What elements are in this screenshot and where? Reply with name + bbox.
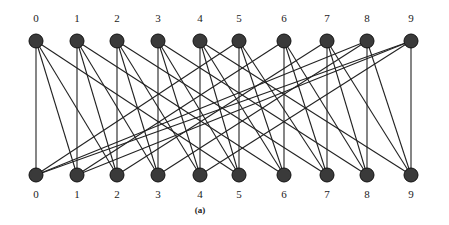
top-node-6 <box>277 34 291 48</box>
bipartite-graph <box>0 0 449 225</box>
top-node-5 <box>232 34 246 48</box>
bottom-node-1 <box>70 168 84 182</box>
top-label-9: 9 <box>408 12 414 24</box>
top-node-7 <box>320 34 334 48</box>
edges <box>36 41 411 175</box>
bottom-node-2 <box>110 168 124 182</box>
top-node-0 <box>29 34 43 48</box>
figure-caption: (a) <box>195 205 206 215</box>
top-node-8 <box>360 34 374 48</box>
edge-1-2 <box>77 41 117 175</box>
bottom-label-6: 6 <box>281 188 287 200</box>
bottom-node-4 <box>193 168 207 182</box>
bottom-label-8: 8 <box>364 188 370 200</box>
top-label-8: 8 <box>364 12 370 24</box>
top-label-0: 0 <box>33 12 39 24</box>
bottom-node-0 <box>29 168 43 182</box>
bottom-node-9 <box>404 168 418 182</box>
bottom-label-4: 4 <box>197 188 203 200</box>
edge-4-5 <box>200 41 239 175</box>
top-label-3: 3 <box>155 12 161 24</box>
top-node-9 <box>404 34 418 48</box>
top-label-4: 4 <box>197 12 203 24</box>
top-label-6: 6 <box>281 12 287 24</box>
bottom-node-3 <box>151 168 165 182</box>
edge-4-6 <box>200 41 284 175</box>
bottom-label-3: 3 <box>155 188 161 200</box>
top-label-7: 7 <box>324 12 330 24</box>
bottom-node-6 <box>277 168 291 182</box>
bottom-label-7: 7 <box>324 188 330 200</box>
top-label-5: 5 <box>236 12 242 24</box>
bottom-label-2: 2 <box>114 188 120 200</box>
edge-8-0 <box>36 41 367 175</box>
bottom-node-8 <box>360 168 374 182</box>
bottom-label-5: 5 <box>236 188 242 200</box>
edge-7-9 <box>327 41 411 175</box>
top-node-3 <box>151 34 165 48</box>
edge-3-5 <box>158 41 239 175</box>
bottom-label-0: 0 <box>33 188 39 200</box>
bottom-label-9: 9 <box>408 188 414 200</box>
top-node-1 <box>70 34 84 48</box>
edge-8-9 <box>367 41 411 175</box>
edge-0-1 <box>36 41 77 175</box>
bottom-node-7 <box>320 168 334 182</box>
top-node-2 <box>110 34 124 48</box>
bottom-label-1: 1 <box>74 188 80 200</box>
bottom-node-5 <box>232 168 246 182</box>
top-label-2: 2 <box>114 12 120 24</box>
top-node-4 <box>193 34 207 48</box>
edge-3-4 <box>158 41 200 175</box>
top-label-1: 1 <box>74 12 80 24</box>
